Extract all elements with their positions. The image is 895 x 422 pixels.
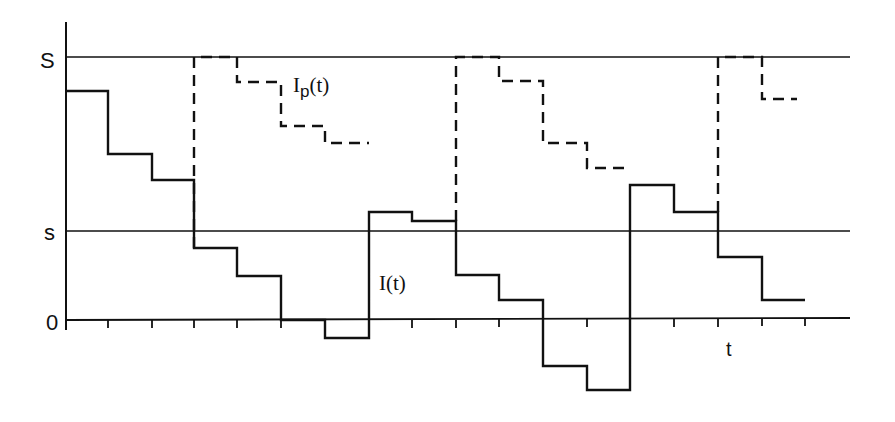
level-S-label: S	[40, 48, 55, 73]
level-zero-label: 0	[46, 310, 58, 335]
inventory-label: I(t)	[379, 271, 406, 295]
inventory-position-label: Ip(t)	[293, 73, 329, 101]
time-axis	[66, 318, 850, 320]
inventory-position-curve	[194, 57, 797, 248]
inventory-curve	[66, 91, 805, 390]
level-s-label: s	[44, 220, 55, 245]
inventory-diagram: S s 0 t Ip(t) I(t)	[0, 0, 895, 422]
time-axis-label: t	[726, 338, 732, 360]
